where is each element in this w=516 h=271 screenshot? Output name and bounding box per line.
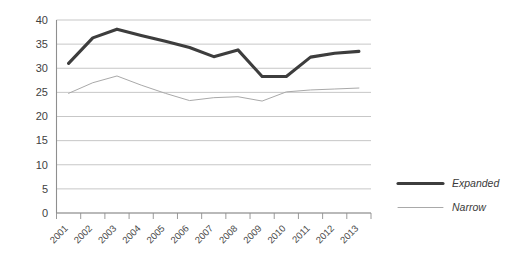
x-tick-label: 2003: [96, 223, 119, 246]
x-tick-label: 2004: [120, 223, 143, 246]
y-tick-label: 5: [42, 183, 48, 195]
y-tick-label: 0: [42, 207, 48, 219]
x-tick-label: 2011: [290, 223, 312, 245]
x-axis-tick-labels: 2001200220032004200520062007200820092010…: [47, 223, 360, 246]
y-tick-label: 10: [36, 159, 48, 171]
x-tick-label: 2002: [71, 223, 94, 246]
y-tick-label: 40: [36, 14, 48, 26]
chart-canvas: 0510152025303540 20012002200320042005200…: [0, 0, 516, 271]
x-tick-label: 2001: [47, 223, 70, 246]
y-tick-label: 35: [36, 38, 48, 50]
y-tick-label: 25: [36, 86, 48, 98]
gridlines-group: [57, 20, 372, 213]
y-tick-label: 20: [36, 110, 48, 122]
x-tick-label: 2012: [313, 223, 336, 246]
legend-label-expanded: Expanded: [452, 177, 500, 189]
x-tick-label: 2005: [144, 223, 167, 246]
x-tick-label: 2007: [192, 223, 215, 246]
x-tick-label: 2006: [168, 223, 191, 246]
y-axis-tick-labels: 0510152025303540: [36, 14, 48, 219]
x-tick-label: 2008: [217, 223, 240, 246]
legend-label-narrow: Narrow: [452, 201, 487, 213]
series-line-narrow: [69, 76, 359, 101]
series-line-expanded: [69, 29, 359, 76]
x-tick-label: 2009: [241, 223, 264, 246]
x-tick-label: 2010: [265, 223, 288, 246]
y-tick-label: 30: [36, 62, 48, 74]
x-tick-label: 2013: [338, 223, 361, 246]
x-axis-tick-marks: [57, 213, 372, 219]
line-chart: 0510152025303540 20012002200320042005200…: [0, 0, 516, 271]
legend: Expanded Narrow: [398, 177, 500, 213]
y-tick-label: 15: [36, 134, 48, 146]
